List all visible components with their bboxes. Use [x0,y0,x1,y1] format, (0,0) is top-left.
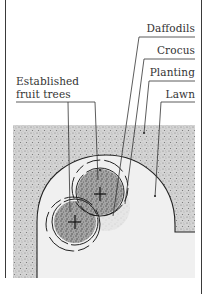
label-crocus: Crocus [157,44,195,57]
label-fruit-trees-line1: Established [16,75,79,88]
label-daffodils: Daffodils [147,22,196,35]
label-planting: Planting [150,66,195,79]
label-fruit-trees-line2: fruit trees [16,88,71,101]
label-lawn: Lawn [166,88,195,101]
